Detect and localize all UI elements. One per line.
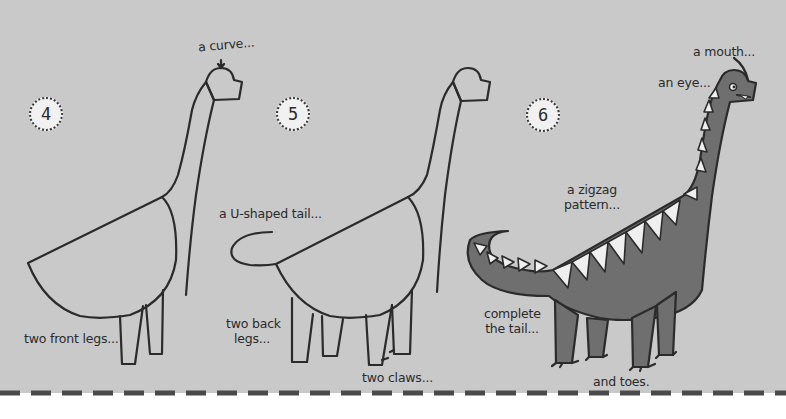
- label-back-legs-line1: two back: [226, 316, 278, 331]
- label-complete-tail-line1: complete: [484, 306, 540, 321]
- step-4-badge: 4: [29, 97, 63, 131]
- label-u-tail: a U-shaped tail...: [219, 206, 322, 221]
- label-complete-tail-line2: the tail...: [484, 321, 540, 336]
- label-eye: an eye...: [658, 75, 710, 90]
- label-zigzag: a zigzag pattern...: [562, 182, 622, 212]
- label-front-legs: two front legs...: [24, 331, 119, 346]
- label-claws: two claws...: [362, 370, 433, 385]
- label-toes: and toes.: [593, 374, 649, 389]
- label-zigzag-line1: a zigzag: [562, 182, 622, 197]
- step-5-badge: 5: [276, 97, 310, 131]
- dinosaur-illustration: [0, 0, 786, 419]
- label-mouth: a mouth...: [693, 44, 755, 59]
- label-complete-tail: complete the tail...: [484, 306, 540, 336]
- label-back-legs-line2: legs...: [226, 331, 278, 346]
- label-zigzag-line2: pattern...: [562, 197, 622, 212]
- label-back-legs: two back legs...: [226, 316, 278, 346]
- tutorial-page: 4 5 6 a curve... two front legs... a U-s…: [0, 0, 786, 419]
- step-6-badge: 6: [526, 98, 560, 132]
